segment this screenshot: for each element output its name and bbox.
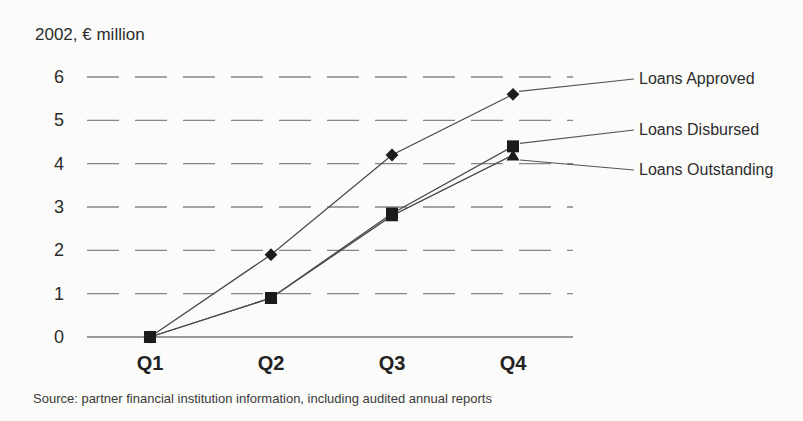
y-tick-label: 4	[34, 154, 64, 175]
y-tick-label: 5	[34, 110, 64, 131]
x-tick-label-q1: Q1	[120, 352, 180, 375]
marker-diamond	[507, 88, 520, 101]
callout-line-loans-disbursed	[520, 130, 634, 143]
series-line-loans-approved	[150, 94, 513, 337]
y-tick-label: 2	[34, 240, 64, 261]
marker-square	[265, 292, 277, 304]
x-tick-label-q2: Q2	[241, 352, 301, 375]
marker-square	[507, 140, 519, 152]
y-tick-label: 6	[34, 67, 64, 88]
y-tick-label: 0	[34, 327, 64, 348]
series-line-loans-outstanding	[150, 155, 513, 337]
legend-label-loans-disbursed: Loans Disbursed	[639, 121, 759, 139]
marker-square	[386, 208, 398, 220]
callout-line-loans-outstanding	[520, 160, 634, 170]
callout-line-loans-approved	[519, 79, 634, 91]
y-tick-label: 3	[34, 197, 64, 218]
legend-label-loans-outstanding: Loans Outstanding	[639, 161, 773, 179]
marker-square	[144, 331, 156, 343]
series-line-loans-disbursed	[150, 146, 513, 337]
source-note: Source: partner financial institution in…	[33, 391, 492, 406]
chart: 2002, € million 6 5 4 3 2 1 0 Q1 Q2 Q3 Q…	[0, 0, 803, 421]
legend-label-loans-approved: Loans Approved	[639, 70, 755, 88]
y-tick-label: 1	[34, 284, 64, 305]
x-tick-label-q4: Q4	[483, 352, 543, 375]
x-tick-label-q3: Q3	[362, 352, 422, 375]
